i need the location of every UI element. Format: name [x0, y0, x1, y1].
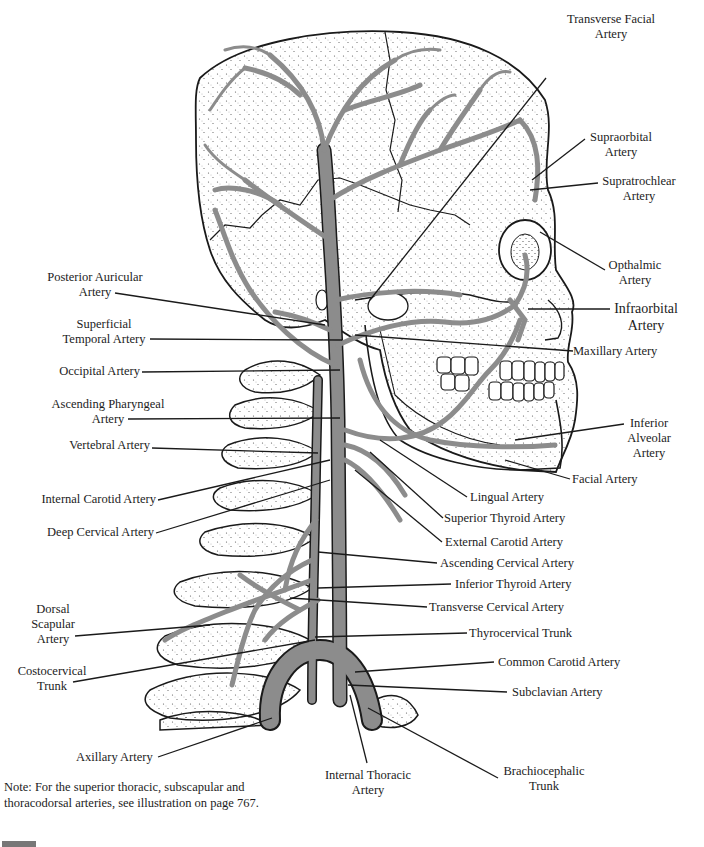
- label-line: Supraorbital: [585, 130, 657, 145]
- footnote: Note: For the superior thoracic, subscap…: [4, 780, 274, 811]
- label-supratrochlear-artery: Supratrochlear Artery: [598, 174, 680, 204]
- label-vertebral-artery: Vertebral Artery: [50, 438, 150, 453]
- label-line: Artery: [605, 273, 665, 288]
- label-inferior-alveolar-artery: Inferior Alveolar Artery: [624, 416, 674, 461]
- label-line: Ascending Pharyngeal: [46, 397, 170, 412]
- label-line: Artery: [46, 412, 170, 427]
- label-line: Posterior Auricular: [40, 270, 150, 285]
- label-external-carotid-artery: External Carotid Artery: [445, 535, 563, 550]
- label-line: Artery: [546, 27, 676, 42]
- label-line: Opthalmic: [605, 258, 665, 273]
- label-line: Supratrochlear: [598, 174, 680, 189]
- label-line: Artery: [585, 145, 657, 160]
- label-line: Scapular: [30, 617, 76, 632]
- label-line: Axillary Artery: [76, 750, 153, 765]
- label-line: Vertebral Artery: [50, 438, 150, 453]
- label-line: Artery: [320, 783, 416, 798]
- label-line: Subclavian Artery: [512, 685, 603, 700]
- label-line: Artery: [598, 189, 680, 204]
- label-posterior-auricular-artery: Posterior Auricular Artery: [40, 270, 150, 300]
- label-line: Thyrocervical Trunk: [469, 626, 572, 641]
- page-tab-marker: [2, 841, 36, 847]
- label-lingual-artery: Lingual Artery: [470, 490, 544, 505]
- label-line: Infraorbital: [610, 300, 682, 317]
- label-line: External Carotid Artery: [445, 535, 563, 550]
- label-line: Internal Thoracic: [320, 768, 416, 783]
- label-subclavian-artery: Subclavian Artery: [512, 685, 603, 700]
- label-line: Superior Thyroid Artery: [444, 511, 565, 526]
- label-line: Facial Artery: [572, 472, 638, 487]
- label-line: Costocervical: [14, 664, 90, 679]
- label-infraorbital-artery: Infraorbital Artery: [610, 300, 682, 334]
- label-brachiocephalic-trunk: Brachiocephalic Trunk: [500, 764, 588, 794]
- label-occipital-artery: Occipital Artery: [50, 364, 140, 379]
- label-line: Dorsal: [30, 602, 76, 617]
- label-ascending-cervical-artery: Ascending Cervical Artery: [440, 556, 574, 571]
- label-line: Transverse Facial: [546, 12, 676, 27]
- label-internal-thoracic-artery: Internal Thoracic Artery: [320, 768, 416, 798]
- label-line: Ascending Cervical Artery: [440, 556, 574, 571]
- label-transverse-facial-artery: Transverse Facial Artery: [546, 12, 676, 42]
- label-line: Artery: [40, 285, 150, 300]
- label-line: Lingual Artery: [470, 490, 544, 505]
- label-internal-carotid-artery: Internal Carotid Artery: [10, 492, 156, 507]
- label-line: Maxillary Artery: [573, 344, 657, 359]
- label-line: Inferior Thyroid Artery: [455, 577, 571, 592]
- label-line: Temporal Artery: [58, 332, 150, 347]
- label-maxillary-artery: Maxillary Artery: [573, 344, 657, 359]
- label-thyrocervical-trunk: Thyrocervical Trunk: [469, 626, 572, 641]
- label-line: Internal Carotid Artery: [10, 492, 156, 507]
- label-line: Trunk: [500, 779, 588, 794]
- label-inferior-thyroid-artery: Inferior Thyroid Artery: [455, 577, 571, 592]
- label-superficial-temporal-artery: Superficial Temporal Artery: [58, 317, 150, 347]
- label-line: Artery: [30, 632, 76, 647]
- label-dorsal-scapular-artery: Dorsal Scapular Artery: [30, 602, 76, 647]
- label-deep-cervical-artery: Deep Cervical Artery: [20, 525, 154, 540]
- label-line: Artery: [624, 446, 674, 461]
- label-line: Superficial: [58, 317, 150, 332]
- label-line: Alveolar: [624, 431, 674, 446]
- label-line: Deep Cervical Artery: [20, 525, 154, 540]
- label-line: Brachiocephalic: [500, 764, 588, 779]
- label-costocervical-trunk: Costocervical Trunk: [14, 664, 90, 694]
- label-line: Transverse Cervical Artery: [429, 600, 564, 615]
- label-superior-thyroid-artery: Superior Thyroid Artery: [444, 511, 565, 526]
- label-line: Common Carotid Artery: [498, 655, 620, 670]
- label-line: Artery: [610, 317, 682, 334]
- label-facial-artery: Facial Artery: [572, 472, 638, 487]
- label-transverse-cervical-artery: Transverse Cervical Artery: [429, 600, 564, 615]
- label-supraorbital-artery: Supraorbital Artery: [585, 130, 657, 160]
- label-ascending-pharyngeal-artery: Ascending Pharyngeal Artery: [46, 397, 170, 427]
- label-line: Trunk: [14, 679, 90, 694]
- label-line: Inferior: [624, 416, 674, 431]
- label-common-carotid-artery: Common Carotid Artery: [498, 655, 620, 670]
- label-axillary-artery: Axillary Artery: [76, 750, 153, 765]
- label-line: Occipital Artery: [50, 364, 140, 379]
- label-opthalmic-artery: Opthalmic Artery: [605, 258, 665, 288]
